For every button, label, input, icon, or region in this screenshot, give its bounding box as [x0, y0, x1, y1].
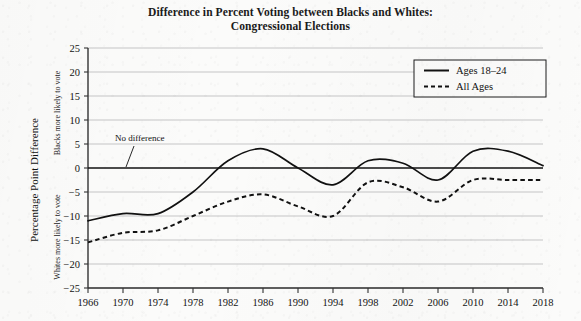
x-tick-label: 2014 [498, 297, 520, 308]
series-line-all-ages [88, 178, 543, 242]
x-axis-ticks: 1966197019741978198219861990199419982002… [78, 288, 554, 308]
x-tick-label: 2018 [533, 297, 554, 308]
series-line-ages-18-24 [88, 148, 543, 220]
x-tick-label: 1998 [358, 297, 379, 308]
x-tick-label: 2002 [393, 297, 414, 308]
y-tick-label: 15 [70, 91, 81, 102]
x-tick-label: 1978 [183, 297, 204, 308]
y-tick-label: 10 [70, 115, 81, 126]
legend-label[interactable]: Ages 18–24 [456, 65, 507, 76]
y-axis-caption-upper: Blacks more likely to vote [53, 70, 62, 155]
data-series-group [88, 148, 543, 242]
y-tick-label: −25 [64, 283, 80, 294]
x-tick-label: 2010 [463, 297, 484, 308]
no-difference-annotation: No difference [115, 133, 165, 167]
legend-label[interactable]: All Ages [456, 81, 493, 92]
no-difference-label: No difference [115, 133, 165, 143]
y-tick-label: −15 [64, 235, 80, 246]
y-tick-label: 20 [70, 67, 81, 78]
x-tick-label: 1990 [288, 297, 309, 308]
x-tick-label: 1974 [148, 297, 170, 308]
y-axis-ticks: 2520151050−5−10−15−20−25 [64, 43, 88, 294]
y-axis-caption-lower: Whites more likely to vote [53, 194, 62, 280]
x-tick-label: 2006 [428, 297, 449, 308]
y-tick-label: −10 [64, 211, 80, 222]
y-tick-label: 5 [75, 139, 80, 150]
x-tick-label: 1970 [113, 297, 134, 308]
x-tick-label: 1994 [323, 297, 345, 308]
y-axis-title: Percentage Point Difference [28, 118, 40, 242]
x-tick-label: 1966 [78, 297, 99, 308]
chart-legend[interactable]: Ages 18–24All Ages [414, 60, 546, 97]
x-tick-label: 1982 [218, 297, 239, 308]
y-tick-label: −5 [69, 187, 80, 198]
line-chart: 2520151050−5−10−15−20−25 196619701974197… [0, 0, 581, 321]
no-difference-leader-line [126, 146, 134, 167]
y-tick-label: 25 [70, 43, 81, 54]
x-tick-label: 1986 [253, 297, 274, 308]
y-tick-label: 0 [75, 163, 80, 174]
y-tick-label: −20 [64, 259, 80, 270]
